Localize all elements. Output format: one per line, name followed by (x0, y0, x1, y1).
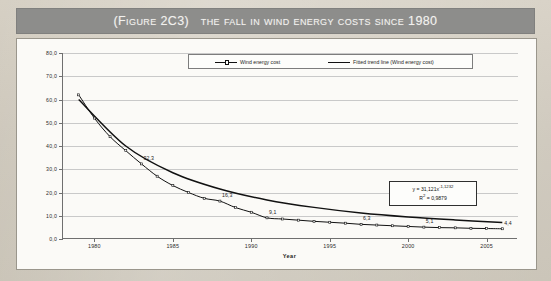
data-point-marker (407, 225, 409, 227)
figure-title-main: The fall in wind energy costs since 1980 (201, 14, 438, 28)
y-axis-tick-label: 80,0 (46, 50, 57, 56)
figure-title-prefix: (Figure 2C3) (114, 14, 190, 28)
y-axis-tick-label: 60,0 (46, 97, 57, 103)
data-point-label: 16,3 (222, 192, 233, 198)
y-axis-tick-label: 70,0 (46, 73, 57, 79)
figure-screenshot: (Figure 2C3) The fall in wind energy cos… (0, 0, 551, 281)
data-point-marker (313, 220, 315, 222)
data-point-marker (501, 228, 503, 230)
data-point-label: 4,4 (504, 220, 512, 226)
x-axis-tick-label: 1985 (166, 243, 179, 249)
x-axis-tick-label: 1990 (245, 243, 258, 249)
trendline-equation-box: y = 31,121x-1,1232 R2 = 0,9879 (389, 181, 477, 206)
data-point-marker (203, 197, 205, 199)
data-point-marker (235, 207, 237, 209)
r-squared-value: = 0,9879 (425, 195, 446, 201)
data-point-marker (439, 227, 441, 229)
x-axis-title: Year (62, 253, 517, 259)
data-point-label: 9,1 (269, 209, 277, 215)
data-point-marker (172, 185, 174, 187)
x-axis-tick-label: 2000 (402, 243, 415, 249)
data-point-marker (391, 225, 393, 227)
y-axis-tick (59, 239, 63, 240)
y-axis-tick-label: 40,0 (46, 143, 57, 149)
data-point-marker (156, 175, 158, 177)
data-point-marker (140, 163, 142, 165)
data-point-marker (250, 211, 252, 213)
plot-area: 0,010,020,030,040,050,060,070,080,0 1980… (62, 53, 517, 239)
series-markers (78, 94, 504, 230)
data-point-marker (486, 228, 488, 230)
series-wind-energy-cost (79, 95, 503, 229)
data-point-label: 5,1 (426, 218, 434, 224)
data-point-marker (93, 117, 95, 119)
data-point-marker (125, 150, 127, 152)
data-point-marker (109, 136, 111, 138)
data-point-marker (329, 221, 331, 223)
equation-text: y = 31,121x (413, 186, 439, 192)
x-axis-tick-label: 1995 (323, 243, 336, 249)
chart-curves (63, 53, 518, 239)
y-axis-tick-label: 30,0 (46, 166, 57, 172)
data-point-marker (188, 192, 190, 194)
y-axis-tick-label: 50,0 (46, 120, 57, 126)
x-axis-tick-label: 1980 (88, 243, 101, 249)
data-point-marker (282, 218, 284, 220)
data-point-marker (470, 227, 472, 229)
data-point-marker (78, 94, 80, 96)
data-point-marker (219, 200, 221, 202)
figure-title: (Figure 2C3) The fall in wind energy cos… (114, 14, 438, 28)
x-axis-tick-label: 2005 (480, 243, 493, 249)
data-point-marker (423, 226, 425, 228)
data-point-marker (266, 217, 268, 219)
data-point-marker (376, 224, 378, 226)
equation-exponent: -1,1232 (439, 184, 453, 189)
data-point-marker (454, 227, 456, 229)
data-point-marker (360, 223, 362, 225)
data-point-label: 6,3 (363, 215, 371, 221)
y-axis-tick-label: 10,0 (46, 213, 57, 219)
figure-title-band: (Figure 2C3) The fall in wind energy cos… (16, 8, 535, 34)
chart-panel: Wind energy cost Fitted trend line (Wind… (16, 38, 537, 270)
y-axis-tick-label: 20,0 (46, 190, 57, 196)
data-point-label: 32,3 (143, 155, 154, 161)
trendline-r-squared: R2 = 0,9879 (393, 193, 473, 202)
data-point-marker (297, 219, 299, 221)
y-axis-tick-label: 0,0 (49, 236, 57, 242)
trendline-equation: y = 31,121x-1,1232 (393, 184, 473, 193)
data-point-marker (344, 222, 346, 224)
